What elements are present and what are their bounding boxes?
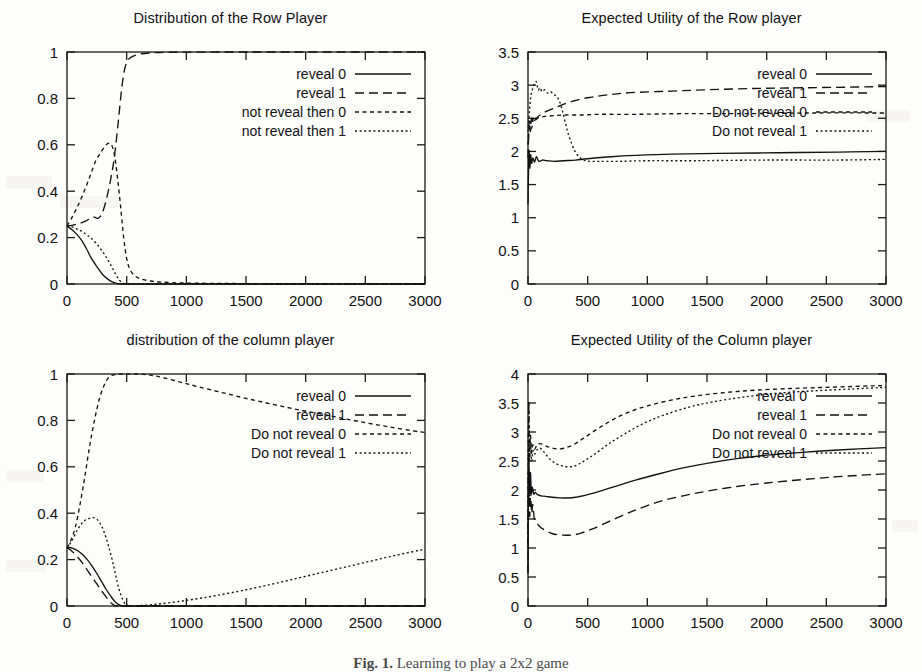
x-tick-label: 1000 xyxy=(170,614,203,631)
series-line xyxy=(528,113,886,145)
plot-frame xyxy=(528,52,886,284)
legend-label: reveal 0 xyxy=(296,388,346,404)
y-tick-label: 3 xyxy=(511,77,519,94)
legend-label: reveal 1 xyxy=(296,85,346,101)
plot-area-column-utility: 00.511.522.533.5405001000150020002500300… xyxy=(461,330,922,650)
x-tick-label: 1000 xyxy=(631,614,664,631)
x-tick-label: 3000 xyxy=(869,614,902,631)
x-tick-label: 1500 xyxy=(690,614,723,631)
series-line xyxy=(67,374,425,548)
x-tick-label: 0 xyxy=(524,292,532,309)
plot-area-row-utility: 00.511.522.533.5050010001500200025003000… xyxy=(461,8,922,328)
series-line xyxy=(67,143,425,284)
x-tick-label: 0 xyxy=(63,614,71,631)
x-tick-label: 1000 xyxy=(170,292,203,309)
y-tick-label: 0.2 xyxy=(37,229,58,246)
y-tick-label: 0.8 xyxy=(37,412,58,429)
legend-label: Do not reveal 0 xyxy=(712,104,807,120)
x-tick-label: 0 xyxy=(63,292,71,309)
legend-label: Do not reveal 0 xyxy=(251,426,346,442)
y-tick-label: 2.5 xyxy=(498,110,519,127)
chart-panel-row-distribution: Distribution of the Row Player 00.20.40.… xyxy=(0,8,461,328)
x-tick-label: 500 xyxy=(114,292,139,309)
legend-label: reveal 1 xyxy=(296,407,346,423)
plot-frame xyxy=(528,374,886,606)
y-tick-label: 2 xyxy=(511,143,519,160)
series-line xyxy=(67,518,425,606)
x-tick-label: 500 xyxy=(575,614,600,631)
legend-label: reveal 1 xyxy=(757,85,807,101)
y-tick-label: 1 xyxy=(511,540,519,557)
x-tick-label: 0 xyxy=(524,614,532,631)
x-tick-label: 1500 xyxy=(229,292,262,309)
y-tick-label: 0.8 xyxy=(37,90,58,107)
x-tick-label: 3000 xyxy=(869,292,902,309)
y-tick-label: 2 xyxy=(511,482,519,499)
y-tick-label: 0 xyxy=(50,598,58,615)
figure-caption: Fig. 1. Learning to play a 2x2 game xyxy=(0,655,922,672)
y-tick-label: 3.5 xyxy=(498,44,519,61)
figure-caption-text: Learning to play a 2x2 game xyxy=(397,655,569,671)
x-tick-label: 1500 xyxy=(229,614,262,631)
x-tick-label: 1500 xyxy=(690,292,723,309)
plot-area-row-distribution: 00.20.40.60.81050010001500200025003000re… xyxy=(0,8,461,328)
y-tick-label: 0.5 xyxy=(498,569,519,586)
y-tick-label: 3 xyxy=(511,424,519,441)
x-tick-label: 500 xyxy=(575,292,600,309)
y-tick-label: 3.5 xyxy=(498,395,519,412)
chart-panel-column-distribution: distribution of the column player 00.20.… xyxy=(0,330,461,650)
legend-label: Do not reveal 1 xyxy=(712,445,807,461)
x-tick-label: 2500 xyxy=(349,614,382,631)
legend-label: reveal 0 xyxy=(757,66,807,82)
plot-area-column-distribution: 00.20.40.60.81050010001500200025003000re… xyxy=(0,330,461,650)
plot-frame xyxy=(67,374,425,606)
y-tick-label: 0.2 xyxy=(37,551,58,568)
series-line xyxy=(67,226,425,284)
y-tick-label: 0 xyxy=(511,276,519,293)
legend-label: reveal 0 xyxy=(757,388,807,404)
y-tick-label: 0.6 xyxy=(37,458,58,475)
y-tick-label: 1 xyxy=(50,44,58,61)
chart-panel-row-utility: Expected Utility of the Row player 00.51… xyxy=(461,8,922,328)
y-tick-label: 0 xyxy=(50,276,58,293)
legend-label: Do not reveal 0 xyxy=(712,426,807,442)
legend-label: not reveal then 0 xyxy=(242,104,347,120)
x-tick-label: 2000 xyxy=(289,292,322,309)
y-tick-label: 2.5 xyxy=(498,453,519,470)
series-line xyxy=(528,86,886,158)
plot-frame xyxy=(67,52,425,284)
x-tick-label: 2500 xyxy=(349,292,382,309)
series-line xyxy=(67,548,425,606)
y-tick-label: 1 xyxy=(511,209,519,226)
y-tick-label: 1 xyxy=(50,366,58,383)
series-line xyxy=(67,226,425,284)
x-tick-label: 2500 xyxy=(810,292,843,309)
y-tick-label: 0 xyxy=(511,598,519,615)
series-line xyxy=(528,387,886,548)
y-tick-label: 1.5 xyxy=(498,176,519,193)
y-tick-label: 1.5 xyxy=(498,511,519,528)
x-tick-label: 2000 xyxy=(289,614,322,631)
figure-page: Distribution of the Row Player 00.20.40.… xyxy=(0,0,922,672)
legend-label: not reveal then 1 xyxy=(242,123,347,139)
x-tick-label: 1000 xyxy=(631,292,664,309)
chart-panel-column-utility: Expected Utility of the Column player 00… xyxy=(461,330,922,650)
y-tick-label: 0.5 xyxy=(498,242,519,259)
x-tick-label: 500 xyxy=(114,614,139,631)
x-tick-label: 3000 xyxy=(408,292,441,309)
legend-label: reveal 1 xyxy=(757,407,807,423)
x-tick-label: 3000 xyxy=(408,614,441,631)
series-line xyxy=(528,448,886,572)
legend-label: reveal 0 xyxy=(296,66,346,82)
legend-label: Do not reveal 1 xyxy=(712,123,807,139)
x-tick-label: 2000 xyxy=(750,614,783,631)
y-tick-label: 4 xyxy=(511,366,519,383)
x-tick-label: 2000 xyxy=(750,292,783,309)
y-tick-label: 0.6 xyxy=(37,136,58,153)
series-line xyxy=(67,548,425,607)
x-tick-label: 2500 xyxy=(810,614,843,631)
y-tick-label: 0.4 xyxy=(37,505,58,522)
figure-caption-prefix: Fig. 1. xyxy=(353,655,393,671)
series-line xyxy=(528,466,886,574)
legend-label: Do not reveal 1 xyxy=(251,445,346,461)
